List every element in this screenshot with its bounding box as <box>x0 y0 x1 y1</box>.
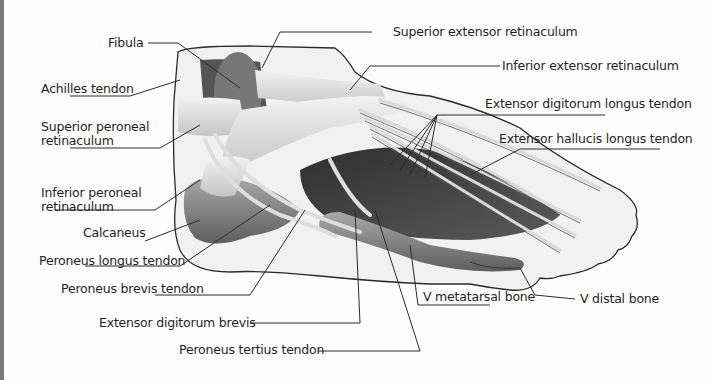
label-superior-extensor-retinaculum: Superior extensor retinaculum <box>393 25 578 39</box>
label-v-metatarsal-bone: V metatarsal bone <box>423 290 535 304</box>
label-extensor-digitorum-brevis: Extensor digitorum brevis <box>99 316 256 330</box>
anatomy-diagram: Fibula Achilles tendon Superior peroneal… <box>0 0 712 380</box>
label-achilles-tendon: Achilles tendon <box>41 82 134 96</box>
label-fibula: Fibula <box>108 36 144 50</box>
label-superior-peroneal-retinaculum-line1: Superior peroneal <box>41 120 149 134</box>
label-peroneus-tertius-tendon: Peroneus tertius tendon <box>179 343 324 357</box>
label-peroneus-longus-tendon: Peroneus longus tendon <box>39 254 185 268</box>
label-peroneus-brevis-tendon: Peroneus brevis tendon <box>61 282 204 296</box>
label-extensor-digitorum-longus-tendon: Extensor digitorum longus tendon <box>485 97 692 111</box>
label-inferior-peroneal-retinaculum-line1: Inferior peroneal <box>41 186 142 200</box>
label-v-distal-bone: V distal bone <box>580 292 659 306</box>
label-calcaneus: Calcaneus <box>83 226 146 240</box>
label-inferior-extensor-retinaculum: Inferior extensor retinaculum <box>502 59 679 73</box>
label-extensor-hallucis-longus-tendon: Extensor hallucis longus tendon <box>499 132 693 146</box>
label-inferior-peroneal-retinaculum-line2: retinaculum <box>41 200 114 214</box>
label-superior-peroneal-retinaculum-line2: retinaculum <box>41 134 114 148</box>
